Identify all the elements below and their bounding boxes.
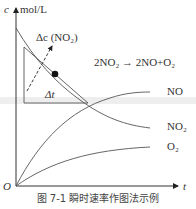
no-curve: [16, 92, 150, 186]
o2-label: O₂: [167, 140, 179, 152]
y-axis-label: c: [4, 3, 9, 15]
no-label: NO: [167, 85, 183, 97]
tangent-point: [52, 71, 59, 78]
figure-caption: 图 7-1 瞬时速率作图法示例: [0, 190, 196, 205]
equation: 2NO₂ → 2NO+O₂: [94, 56, 175, 68]
delta-t-label: Δt: [45, 88, 55, 100]
no2-label: NO₂: [167, 120, 187, 132]
y-axis-unit: mol/L: [20, 3, 47, 15]
rate-diagram: [0, 0, 196, 209]
delta-c-label: Δc (NO₂): [36, 31, 78, 43]
no2-curve: [16, 28, 150, 128]
